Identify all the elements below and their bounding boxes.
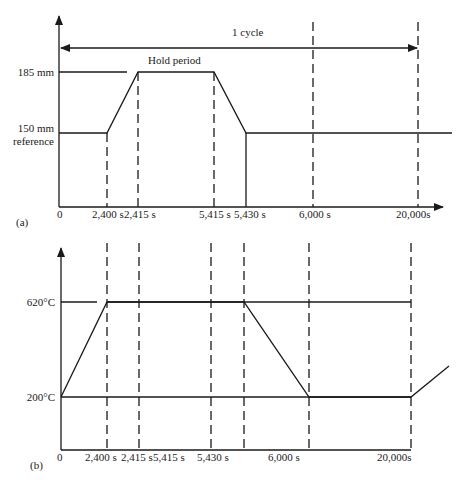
x-label-5430-b: 5,430 s: [197, 451, 229, 463]
x-label-0-b: 0: [57, 451, 63, 463]
temperature-curve: [61, 302, 449, 397]
y-label-150: 150 mm: [18, 122, 55, 134]
y-label-200: 200°C: [27, 391, 55, 403]
x-label-20000-a: 20,000s: [396, 208, 431, 220]
displacement-curve: [59, 72, 452, 133]
x-label-2415-a: 2,415 s: [124, 208, 156, 220]
cycle-label: 1 cycle: [232, 26, 264, 38]
x-label-5430-a: 5,430 s: [234, 208, 266, 220]
thermo-mechanical-cycle-diagram: 1 cycle Hold period 185 mm 150 mm refere…: [0, 0, 464, 480]
y-label-620: 620°C: [27, 296, 55, 308]
y-label-reference: reference: [13, 135, 54, 147]
x-label-6000-b: 6,000 s: [268, 451, 300, 463]
hold-period-label: Hold period: [148, 54, 201, 66]
x-label-2400-b: 2,400 s: [85, 451, 117, 463]
y-label-185: 185 mm: [18, 66, 55, 78]
panel-a-tag: (a): [16, 216, 29, 229]
x-label-2415-b: 2,415 s: [121, 451, 153, 463]
x-label-0-a: 0: [57, 208, 63, 220]
x-label-6000-a: 6,000 s: [299, 208, 331, 220]
panel-b: 620°C 200°C 0 2,400 s 2,415 s 5,415 s 5,…: [27, 243, 449, 472]
panel-b-tag: (b): [30, 459, 43, 472]
x-label-5415-a: 5,415 s: [199, 208, 231, 220]
x-label-20000-b: 20,000s: [377, 451, 412, 463]
x-label-5415-b: 5,415 s: [153, 451, 185, 463]
panel-a: 1 cycle Hold period 185 mm 150 mm refere…: [13, 16, 452, 229]
x-label-2400-a: 2,400 s: [92, 208, 124, 220]
